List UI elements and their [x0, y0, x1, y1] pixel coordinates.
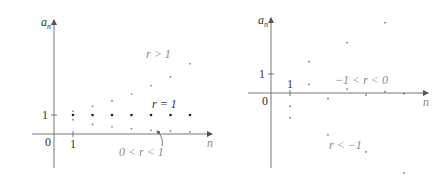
data-point: [150, 85, 152, 87]
data-point: [92, 106, 94, 108]
data-point: [111, 100, 113, 102]
right-y-tick-label: 1: [259, 67, 265, 81]
data-point: [92, 124, 94, 126]
right-chart: an n 0 1 1 −1 < r < 0 r < −1: [248, 13, 429, 174]
label-neg1-0: −1 < r < 0: [335, 73, 388, 87]
data-point: [289, 105, 291, 107]
data-point: [403, 93, 405, 95]
data-point: [170, 76, 172, 78]
right-x-axis-label: n: [423, 95, 429, 109]
right-x-tick-label: 1: [287, 77, 293, 91]
left-y-axis-label: an: [41, 15, 51, 31]
data-point: [327, 98, 329, 100]
data-point: [72, 119, 74, 121]
data-point: [72, 114, 75, 117]
label-r-eq-1: r = 1: [152, 97, 177, 111]
data-point: [308, 61, 310, 63]
right-y-axis-label: an: [258, 13, 268, 29]
sequence-charts: an n 0 1 1 r > 1 r = 1 0 < r < 1 an n 0 …: [0, 0, 439, 185]
data-point: [111, 114, 114, 117]
data-point: [72, 110, 74, 112]
data-point: [131, 128, 133, 130]
data-point: [365, 151, 367, 153]
data-point: [346, 42, 348, 44]
data-point: [189, 131, 191, 133]
left-y-tick-label: 1: [42, 108, 48, 122]
data-point: [384, 91, 386, 93]
label-r-0-1: 0 < r < 1: [119, 145, 164, 159]
annotation-arrow: [157, 131, 162, 146]
left-chart: an n 0 1 1 r > 1 r = 1 0 < r < 1: [32, 15, 213, 168]
data-point: [365, 94, 367, 96]
right-origin-label: 0: [262, 94, 268, 108]
data-point: [289, 117, 291, 119]
data-point: [403, 172, 405, 174]
data-point: [189, 63, 191, 65]
data-point: [327, 134, 329, 136]
data-point: [170, 130, 172, 132]
data-point: [384, 22, 386, 24]
data-point: [346, 88, 348, 90]
data-point: [130, 114, 133, 117]
data-point: [150, 129, 152, 131]
data-point: [91, 114, 94, 117]
data-point: [150, 114, 153, 117]
data-point: [111, 126, 113, 128]
data-point: [131, 93, 133, 95]
left-origin-label: 0: [45, 135, 51, 149]
left-x-axis-label: n: [207, 136, 213, 150]
label-r-gt-1: r > 1: [146, 47, 171, 61]
data-point: [308, 84, 310, 86]
data-point: [189, 114, 192, 117]
label-lt-neg1: r < −1: [329, 138, 362, 152]
data-point: [169, 114, 172, 117]
left-x-tick-label: 1: [70, 137, 76, 151]
